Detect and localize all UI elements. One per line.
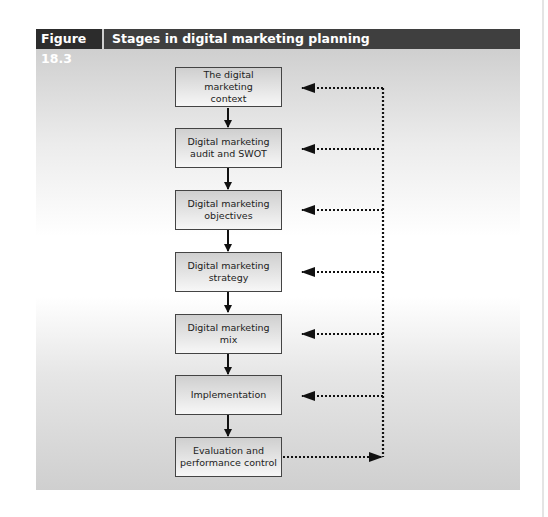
stage-label: Digital marketing — [187, 198, 269, 210]
stage-label: Digital marketing — [187, 260, 269, 272]
stage-label: objectives — [187, 210, 269, 222]
stage-objectives: Digital marketingobjectives — [175, 190, 282, 230]
feedback-loop — [283, 88, 383, 457]
figure-panel: Figure 18.3 Stages in digital marketing … — [36, 29, 520, 490]
stage-label: audit and SWOT — [187, 148, 269, 160]
stage-label: Digital marketing — [187, 322, 269, 334]
stage-evaluation: Evaluation andperformance control — [175, 437, 282, 477]
stage-label: Digital marketing — [187, 136, 269, 148]
stage-label: Evaluation and — [180, 445, 277, 457]
stage-label: performance control — [180, 457, 277, 469]
stage-label: Implementation — [191, 389, 266, 401]
stage-mix: Digital marketingmix — [175, 314, 282, 354]
stage-label: The digital marketing — [180, 69, 277, 93]
stage-context: The digital marketingcontext — [175, 67, 282, 107]
stage-label: context — [180, 93, 277, 105]
stage-implementation: Implementation — [175, 375, 282, 415]
page-divider — [542, 0, 544, 517]
stage-label: strategy — [187, 272, 269, 284]
stage-audit-swot: Digital marketingaudit and SWOT — [175, 128, 282, 168]
stage-strategy: Digital marketingstrategy — [175, 252, 282, 292]
stage-label: mix — [187, 334, 269, 346]
